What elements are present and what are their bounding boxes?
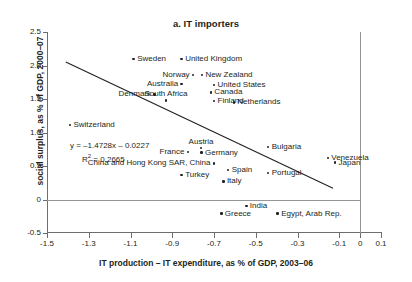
data-point bbox=[222, 180, 224, 182]
x-tick-mark bbox=[381, 233, 382, 238]
data-point-label: Spain bbox=[232, 166, 252, 174]
x-tick-mark bbox=[89, 233, 90, 238]
data-point-label: United Kingdom bbox=[185, 55, 242, 63]
data-point bbox=[200, 147, 202, 149]
x-tick-mark bbox=[339, 233, 340, 238]
data-point-label: Bulgaria bbox=[272, 143, 301, 151]
data-point-label: Sweden bbox=[137, 55, 166, 63]
scan-artifact-strip bbox=[0, 0, 412, 6]
data-point-label: Austria bbox=[189, 138, 214, 146]
data-point bbox=[165, 99, 167, 101]
data-point-label: New Zealand bbox=[205, 71, 252, 79]
data-point bbox=[180, 174, 182, 176]
data-point bbox=[210, 91, 212, 93]
zero-line-horizontal bbox=[47, 200, 360, 201]
x-tick-label: -0.7 bbox=[197, 240, 231, 248]
data-point bbox=[69, 124, 71, 126]
data-point-label: Switzerland bbox=[73, 121, 114, 129]
data-point bbox=[267, 172, 269, 174]
data-point-label: France bbox=[160, 148, 185, 156]
data-point bbox=[227, 169, 229, 171]
equation-text: y = –1.4728x – 0.0227 bbox=[70, 141, 149, 150]
data-point-label: Portugal bbox=[272, 169, 302, 177]
data-point-label: Germany bbox=[205, 149, 238, 157]
data-point bbox=[267, 146, 269, 148]
data-point bbox=[132, 58, 134, 60]
x-tick-mark bbox=[47, 233, 48, 238]
data-point-label: India bbox=[250, 202, 267, 210]
x-tick-label: 0.1 bbox=[364, 240, 398, 248]
data-point-label: Australia bbox=[147, 80, 178, 88]
x-tick-label: -0.3 bbox=[281, 240, 315, 248]
zero-line-vertical bbox=[360, 32, 361, 233]
data-point-label: Norway bbox=[163, 71, 190, 79]
regression-equation: y = –1.4728x – 0.0227 R2 = 0.2665 bbox=[70, 140, 149, 165]
chart-title: a. IT importers bbox=[0, 18, 412, 29]
plot-area: SwedenUnited KingdomNorwayNew ZealandAus… bbox=[47, 32, 381, 233]
x-axis-title: IT production – IT expenditure, as % of … bbox=[0, 258, 412, 268]
x-tick-label: -0.5 bbox=[239, 240, 273, 248]
x-tick-mark bbox=[214, 233, 215, 238]
data-point bbox=[213, 100, 215, 102]
x-tick-mark bbox=[256, 233, 257, 238]
data-point-label: Turkey bbox=[185, 171, 209, 179]
data-point bbox=[245, 205, 247, 207]
data-point-label: Italy bbox=[227, 177, 242, 185]
x-tick-label: -0.9 bbox=[155, 240, 189, 248]
data-point bbox=[334, 161, 336, 163]
data-point bbox=[327, 157, 329, 159]
data-point bbox=[192, 74, 194, 76]
chart-figure: a. IT importers 2.52.01.51.00.50-0.5 -1.… bbox=[0, 0, 412, 282]
data-point bbox=[201, 74, 203, 76]
data-point bbox=[213, 162, 215, 164]
data-point bbox=[180, 58, 182, 60]
data-point-label: Japan bbox=[339, 159, 361, 167]
y-tick-label: -0.5 bbox=[15, 229, 41, 237]
y-axis-title: social surplus, as % of GDP, 2000–07 bbox=[35, 11, 45, 211]
data-point bbox=[180, 83, 182, 85]
data-point-label: South Africa bbox=[144, 90, 187, 98]
x-tick-label: -1.1 bbox=[114, 240, 148, 248]
r-squared-text: R2 = 0.2665 bbox=[70, 152, 149, 165]
x-tick-label: -1.3 bbox=[72, 240, 106, 248]
data-point bbox=[187, 151, 189, 153]
x-tick-mark bbox=[131, 233, 132, 238]
x-tick-label: -1.5 bbox=[30, 240, 64, 248]
data-point-label: Greece bbox=[225, 210, 251, 218]
data-point bbox=[213, 84, 215, 86]
x-tick-mark bbox=[360, 233, 361, 238]
data-point bbox=[200, 151, 202, 153]
data-point-label: Egypt, Arab Rep. bbox=[281, 210, 341, 218]
x-tick-mark bbox=[172, 233, 173, 238]
data-point bbox=[233, 101, 235, 103]
x-tick-mark bbox=[298, 233, 299, 238]
data-point bbox=[220, 212, 222, 214]
data-point-label: Netherlands bbox=[237, 98, 280, 106]
data-point bbox=[276, 212, 278, 214]
